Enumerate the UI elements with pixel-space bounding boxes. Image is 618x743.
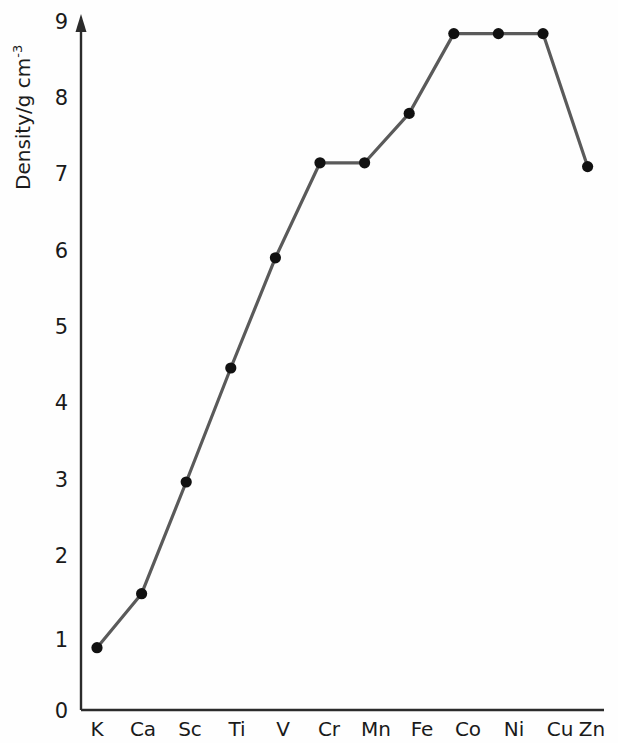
y-axis-label-exponent: -3	[10, 45, 25, 58]
y-tick-5: 5	[55, 315, 68, 339]
data-point-ti	[225, 362, 236, 373]
y-axis-label-text: Density/g cm	[11, 58, 35, 190]
x-tick-cu: Cu	[547, 717, 574, 741]
x-tick-fe: Fe	[411, 717, 434, 741]
y-tick-0: 0	[55, 699, 68, 723]
y-tick-6: 6	[55, 239, 68, 263]
chart-background	[0, 0, 618, 743]
x-tick-sc: Sc	[178, 717, 202, 741]
x-tick-zn: Zn	[579, 717, 605, 741]
data-point-v	[270, 252, 281, 263]
x-tick-ni: Ni	[504, 717, 525, 741]
y-tick-9: 9	[55, 10, 68, 34]
x-tick-k: K	[90, 717, 104, 741]
x-tick-ti: Ti	[227, 717, 245, 741]
x-tick-ca: Ca	[130, 717, 156, 741]
x-tick-mn: Mn	[361, 717, 391, 741]
y-tick-4: 4	[55, 391, 68, 415]
data-point-ca	[136, 588, 147, 599]
data-point-cu	[537, 28, 548, 39]
svg-text:Density/g cm-3: Density/g cm-3	[10, 45, 35, 190]
density-line-chart: Density/g cm-3 9 8 7 6 5 4 3 2 1 0 K Ca …	[0, 0, 618, 743]
data-point-sc	[181, 476, 192, 487]
data-point-k	[91, 642, 102, 653]
data-point-ni	[493, 28, 504, 39]
y-axis-label: Density/g cm-3	[10, 45, 35, 190]
data-point-co	[448, 28, 459, 39]
x-tick-co: Co	[455, 717, 481, 741]
data-point-zn	[582, 161, 593, 172]
data-point-mn	[359, 157, 370, 168]
x-tick-cr: Cr	[318, 717, 341, 741]
y-tick-1: 1	[55, 628, 68, 652]
chart-container: Density/g cm-3 9 8 7 6 5 4 3 2 1 0 K Ca …	[0, 0, 618, 743]
y-tick-7: 7	[55, 162, 68, 186]
data-point-fe	[404, 108, 415, 119]
y-tick-3: 3	[55, 468, 68, 492]
x-tick-v: V	[276, 717, 290, 741]
y-tick-8: 8	[55, 86, 68, 110]
data-point-cr	[314, 157, 325, 168]
y-tick-2: 2	[55, 544, 68, 568]
